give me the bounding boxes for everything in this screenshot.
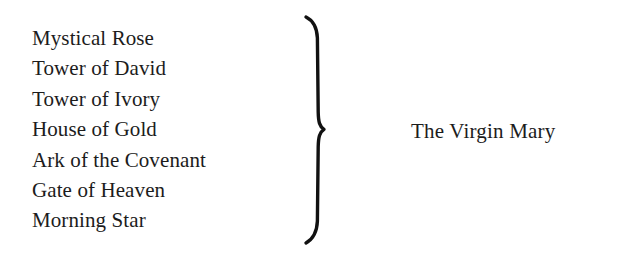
- list-item: Mystical Rose: [32, 23, 282, 53]
- list-item: House of Gold: [32, 114, 282, 144]
- litany-figure: Mystical Rose Tower of David Tower of Iv…: [0, 0, 624, 253]
- list-item: Gate of Heaven: [32, 175, 282, 205]
- right-curly-brace-icon: [292, 14, 348, 246]
- group-label: The Virgin Mary: [411, 116, 555, 146]
- list-item: Ark of the Covenant: [32, 145, 282, 175]
- titles-list: Mystical Rose Tower of David Tower of Iv…: [32, 23, 282, 236]
- list-item: Tower of David: [32, 53, 282, 83]
- list-item: Morning Star: [32, 205, 282, 235]
- list-item: Tower of Ivory: [32, 84, 282, 114]
